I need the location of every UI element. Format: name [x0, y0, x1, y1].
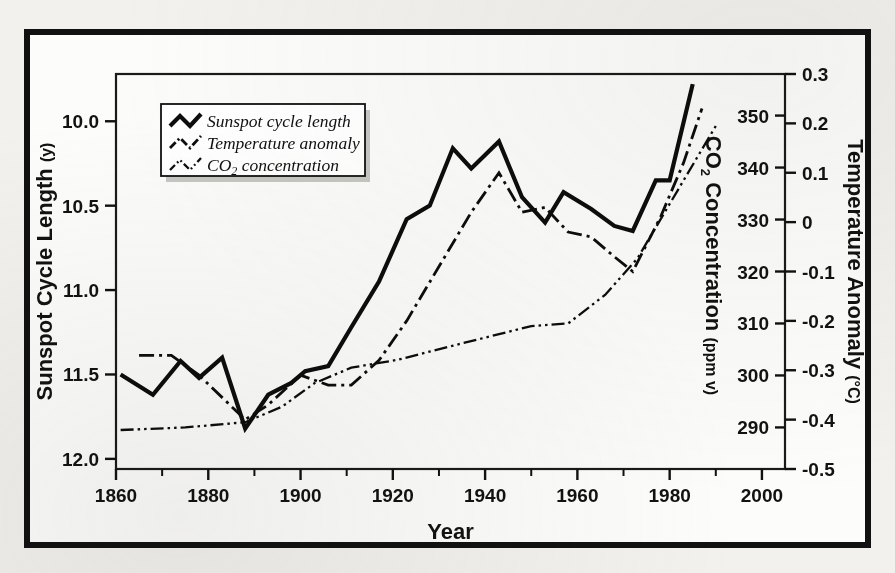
- y-temp-tick-label: -0.2: [802, 311, 835, 332]
- x-tick-label: 1900: [279, 485, 321, 506]
- x-tick-label: 1980: [649, 485, 691, 506]
- y-co2-tick-label: 320: [737, 262, 769, 283]
- y-co2-tick-label: 330: [737, 210, 769, 231]
- y-temp-tick-label: -0.3: [802, 360, 835, 381]
- y-temp-tick-label: 0.3: [802, 64, 828, 85]
- climate-sunspot-chart: 18601880190019201940196019802000Year10.0…: [0, 0, 895, 573]
- y-left-tick-label: 10.5: [62, 196, 99, 217]
- x-tick-label: 1940: [464, 485, 506, 506]
- x-tick-label: 1960: [556, 485, 598, 506]
- y-temp-tick-label: -0.5: [802, 459, 835, 480]
- y-temp-tick-label: 0.2: [802, 113, 828, 134]
- x-axis-title: Year: [427, 519, 474, 544]
- y-temp-tick-label: 0: [802, 212, 813, 233]
- figure-container: 18601880190019201940196019802000Year10.0…: [0, 0, 895, 573]
- y-co2-tick-label: 340: [737, 158, 769, 179]
- x-tick-label: 2000: [741, 485, 783, 506]
- legend-label-rest: concentration: [237, 155, 339, 175]
- y-left-tick-label: 12.0: [62, 449, 99, 470]
- y-temp-axis-title: Temperature Anomaly (°C): [843, 139, 868, 404]
- y-temp-tick-label: -0.1: [802, 262, 835, 283]
- y-co2-axis-subscript: 2: [698, 169, 713, 176]
- x-tick-label: 1920: [372, 485, 414, 506]
- y-co2-tick-label: 350: [737, 106, 769, 127]
- legend-label-temperature-anomaly: Temperature anomaly: [207, 133, 360, 153]
- y-co2-tick-label: 290: [737, 417, 769, 438]
- y-left-tick-label: 11.5: [63, 364, 99, 385]
- y-co2-axis-title-rest: Concentration: [701, 176, 726, 337]
- x-tick-label: 1860: [95, 485, 137, 506]
- y-left-axis-unit: (y): [38, 143, 55, 163]
- legend-label-co2-concentration: CO2 concentration: [207, 155, 339, 178]
- y-left-tick-label: 11.0: [63, 280, 99, 301]
- y-left-tick-label: 10.0: [62, 111, 99, 132]
- y-co2-tick-label: 310: [737, 313, 769, 334]
- y-left-axis-title: Sunspot Cycle Length (y): [32, 143, 57, 401]
- legend-label-sunspot-cycle-length: Sunspot cycle length: [207, 111, 351, 131]
- legend: Sunspot cycle lengthTemperature anomalyC…: [161, 104, 370, 182]
- y-temp-axis-unit: (°C): [845, 375, 862, 404]
- y-co2-tick-label: 300: [737, 365, 769, 386]
- y-co2-axis-unit: (ppm v): [703, 337, 720, 395]
- x-tick-label: 1880: [187, 485, 229, 506]
- y-temp-tick-label: 0.1: [802, 163, 829, 184]
- y-temp-tick-label: -0.4: [802, 410, 835, 431]
